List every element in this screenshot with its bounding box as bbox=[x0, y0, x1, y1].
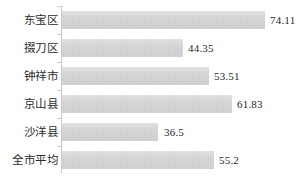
category-label: 掇刀区 bbox=[24, 34, 58, 62]
chart-row: 京山县 61.83 bbox=[0, 90, 307, 118]
bar-value-label: 36.5 bbox=[164, 123, 184, 141]
category-label: 沙洋县 bbox=[24, 118, 58, 146]
chart-row: 东宝区 74.11 bbox=[0, 6, 307, 34]
bar bbox=[62, 11, 265, 29]
bar bbox=[62, 39, 183, 57]
bar-chart: 东宝区 74.11 掇刀区 44.35 钟祥市 53.51 京山县 61.83 … bbox=[0, 0, 307, 179]
bar bbox=[62, 95, 232, 113]
chart-row: 钟祥市 53.51 bbox=[0, 62, 307, 90]
bar-value-label: 55.2 bbox=[219, 151, 239, 169]
chart-row: 沙洋县 36.5 bbox=[0, 118, 307, 146]
bar-value-label: 61.83 bbox=[237, 95, 263, 113]
category-label: 全市平均 bbox=[12, 146, 58, 174]
category-label: 钟祥市 bbox=[24, 62, 58, 90]
category-label: 东宝区 bbox=[24, 6, 58, 34]
category-label: 京山县 bbox=[24, 90, 58, 118]
bar-value-label: 44.35 bbox=[188, 39, 214, 57]
bar bbox=[62, 67, 209, 85]
bar bbox=[62, 123, 158, 141]
chart-row: 掇刀区 44.35 bbox=[0, 34, 307, 62]
bar bbox=[62, 151, 214, 169]
bar-value-label: 53.51 bbox=[214, 67, 240, 85]
chart-row: 全市平均 55.2 bbox=[0, 146, 307, 174]
plot-area: 东宝区 74.11 掇刀区 44.35 钟祥市 53.51 京山县 61.83 … bbox=[0, 0, 307, 179]
bar-value-label: 74.11 bbox=[270, 11, 295, 29]
